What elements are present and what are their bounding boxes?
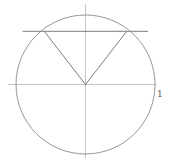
unit-circle-diagram: 1 [0, 0, 170, 164]
radius-left [44, 31, 85, 84]
unit-label: 1 [157, 89, 163, 99]
radius-right [86, 31, 127, 84]
